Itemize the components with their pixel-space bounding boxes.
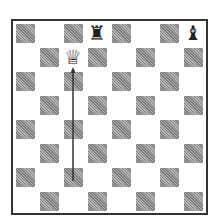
dark-square-fill — [64, 72, 83, 91]
square-g5 — [157, 93, 181, 117]
square-a7 — [13, 45, 37, 69]
dark-square-fill — [88, 96, 107, 115]
square-a4 — [13, 117, 37, 141]
square-c2 — [61, 165, 85, 189]
square-c4 — [61, 117, 85, 141]
square-e8 — [109, 21, 133, 45]
square-c3 — [61, 141, 85, 165]
dark-square-fill — [184, 192, 203, 211]
square-f1 — [133, 189, 157, 213]
dark-square-fill — [64, 120, 83, 139]
dark-square-fill — [160, 72, 179, 91]
square-g3 — [157, 141, 181, 165]
square-h4 — [181, 117, 205, 141]
square-h5 — [181, 93, 205, 117]
square-e7 — [109, 45, 133, 69]
square-a6 — [13, 69, 37, 93]
square-c7: ♕ — [61, 45, 85, 69]
dark-square-fill — [40, 96, 59, 115]
square-d7 — [85, 45, 109, 69]
square-c8 — [61, 21, 85, 45]
square-c6 — [61, 69, 85, 93]
chess-board: ♜♝♕ — [11, 19, 208, 215]
square-d1 — [85, 189, 109, 213]
square-f8 — [133, 21, 157, 45]
square-b4 — [37, 117, 61, 141]
dark-square-fill — [16, 72, 35, 91]
square-b5 — [37, 93, 61, 117]
dark-square-fill — [112, 168, 131, 187]
square-e3 — [109, 141, 133, 165]
dark-square-fill — [16, 168, 35, 187]
square-d5 — [85, 93, 109, 117]
square-e2 — [109, 165, 133, 189]
dark-square-fill — [112, 120, 131, 139]
square-f2 — [133, 165, 157, 189]
dark-square-fill — [112, 72, 131, 91]
square-a8 — [13, 21, 37, 45]
dark-square-fill — [160, 120, 179, 139]
square-a5 — [13, 93, 37, 117]
square-b7 — [37, 45, 61, 69]
square-h1 — [181, 189, 205, 213]
dark-square-fill — [16, 120, 35, 139]
square-e5 — [109, 93, 133, 117]
square-e4 — [109, 117, 133, 141]
square-b8 — [37, 21, 61, 45]
dark-square-fill — [88, 144, 107, 163]
square-h6 — [181, 69, 205, 93]
square-g2 — [157, 165, 181, 189]
dark-square-fill — [40, 144, 59, 163]
square-g1 — [157, 189, 181, 213]
square-b1 — [37, 189, 61, 213]
square-f7 — [133, 45, 157, 69]
square-h7 — [181, 45, 205, 69]
square-d8: ♜ — [85, 21, 109, 45]
dark-square-fill — [136, 48, 155, 67]
square-a3 — [13, 141, 37, 165]
dark-square-fill — [64, 168, 83, 187]
dark-square-fill — [136, 96, 155, 115]
square-e1 — [109, 189, 133, 213]
square-c5 — [61, 93, 85, 117]
square-d4 — [85, 117, 109, 141]
white-queen-icon: ♕ — [61, 45, 85, 69]
square-f3 — [133, 141, 157, 165]
square-e6 — [109, 69, 133, 93]
square-b2 — [37, 165, 61, 189]
square-f4 — [133, 117, 157, 141]
square-a1 — [13, 189, 37, 213]
dark-square-fill — [184, 96, 203, 115]
square-h8: ♝ — [181, 21, 205, 45]
dark-square-fill — [40, 192, 59, 211]
square-f6 — [133, 69, 157, 93]
dark-square-fill — [88, 192, 107, 211]
square-g7 — [157, 45, 181, 69]
square-h3 — [181, 141, 205, 165]
dark-square-fill — [160, 168, 179, 187]
square-d2 — [85, 165, 109, 189]
black-rook-icon: ♜ — [85, 21, 109, 45]
dark-square-fill — [184, 48, 203, 67]
square-d6 — [85, 69, 109, 93]
square-g8 — [157, 21, 181, 45]
square-g4 — [157, 117, 181, 141]
square-a2 — [13, 165, 37, 189]
dark-square-fill — [184, 144, 203, 163]
black-bishop-icon: ♝ — [181, 21, 205, 45]
dark-square-fill — [40, 48, 59, 67]
square-c1 — [61, 189, 85, 213]
dark-square-fill — [16, 24, 35, 43]
dark-square-fill — [136, 192, 155, 211]
dark-square-fill — [112, 24, 131, 43]
square-b6 — [37, 69, 61, 93]
square-g6 — [157, 69, 181, 93]
square-f5 — [133, 93, 157, 117]
square-b3 — [37, 141, 61, 165]
dark-square-fill — [160, 24, 179, 43]
square-d3 — [85, 141, 109, 165]
dark-square-fill — [136, 144, 155, 163]
dark-square-fill — [64, 24, 83, 43]
dark-square-fill — [88, 48, 107, 67]
square-h2 — [181, 165, 205, 189]
